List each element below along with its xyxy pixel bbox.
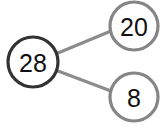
part-node-top: 20	[110, 2, 158, 50]
whole-value: 28	[19, 49, 47, 77]
whole-node: 28	[8, 37, 58, 87]
part-node-bottom: 8	[110, 73, 158, 121]
connector-line-to-part-20	[58, 31, 111, 53]
part-value-bottom: 8	[127, 84, 141, 112]
part-value-top: 20	[120, 13, 148, 41]
number-bond-diagram: 28 20 8	[0, 0, 167, 133]
connector-line-to-part-8	[58, 71, 111, 91]
